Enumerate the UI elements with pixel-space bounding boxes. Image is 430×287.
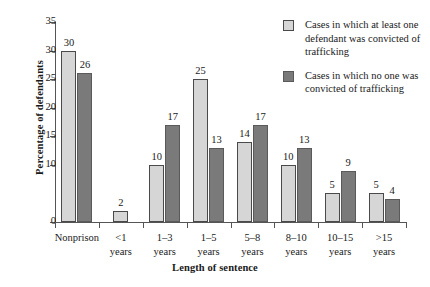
y-axis-tick-label: 25 — [30, 72, 56, 83]
y-axis-tick-label: 30 — [30, 44, 56, 55]
bar — [341, 171, 356, 222]
y-axis-tick-label: 20 — [30, 101, 56, 112]
legend-swatch — [283, 20, 294, 31]
bar — [281, 165, 296, 222]
bar — [165, 125, 180, 222]
x-axis-tick — [187, 222, 188, 228]
x-axis-tick — [231, 222, 232, 228]
bar — [237, 142, 252, 222]
chart-legend: Cases in which at least one defendant wa… — [283, 18, 430, 106]
bar — [385, 199, 400, 222]
y-axis-tick-label: 35 — [30, 15, 56, 26]
y-axis-tick-label: 0 — [30, 215, 56, 226]
bar-value-label: 26 — [69, 59, 100, 70]
bar — [369, 193, 384, 222]
bar-value-label: 13 — [201, 134, 232, 145]
x-axis-tick — [318, 222, 319, 228]
bar-value-label: 13 — [289, 134, 320, 145]
y-axis-tick-label: 10 — [30, 158, 56, 169]
x-axis-tick — [99, 222, 100, 228]
x-axis-tick — [406, 222, 407, 228]
bar-value-label: 4 — [377, 185, 408, 196]
bar — [253, 125, 268, 222]
bar — [193, 79, 208, 222]
bar — [61, 51, 76, 222]
legend-entry: Cases in which at least one defendant wa… — [283, 18, 430, 59]
bar — [113, 211, 128, 222]
x-axis-title: Length of sentence — [0, 262, 430, 273]
bar — [77, 73, 92, 222]
bar-value-label: 30 — [53, 37, 84, 48]
x-axis-tick — [362, 222, 363, 228]
x-axis-category-label: >15 years — [354, 231, 414, 258]
x-axis-tick — [143, 222, 144, 228]
y-axis-tick-label: 15 — [30, 129, 56, 140]
x-axis-tick — [274, 222, 275, 228]
legend-label: Cases in which at least one defendant wa… — [305, 18, 430, 59]
bar-value-label: 2 — [105, 197, 136, 208]
bar-value-label: 9 — [333, 157, 364, 168]
legend-entry: Cases in which no one was convicted of t… — [283, 69, 430, 96]
x-axis-tick — [55, 222, 56, 228]
bar-chart: Percentage of defendants 0101520253035 N… — [0, 0, 430, 287]
bar-value-label: 17 — [157, 111, 188, 122]
bar — [149, 165, 164, 222]
bar-value-label: 17 — [245, 111, 276, 122]
bar — [325, 193, 340, 222]
legend-swatch — [283, 71, 294, 82]
bar-value-label: 25 — [185, 65, 216, 76]
legend-label: Cases in which no one was convicted of t… — [305, 69, 430, 96]
bar — [297, 148, 312, 222]
bar — [209, 148, 224, 222]
